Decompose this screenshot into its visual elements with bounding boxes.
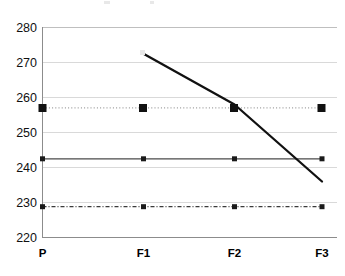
gridlines <box>43 63 338 203</box>
y-tick-label: 260 <box>16 91 37 105</box>
y-tick-label: 280 <box>16 21 37 35</box>
x-tick-label: F2 <box>228 247 241 259</box>
x-tick-label: P <box>39 247 47 259</box>
series-middle-constant <box>40 156 325 161</box>
x-axis-labels: P F1 F2 F3 <box>39 247 329 259</box>
chart-canvas: 280 270 260 250 240 230 220 <box>0 0 345 276</box>
cropped-title-artifact <box>104 1 154 4</box>
series-lower-constant <box>40 204 325 209</box>
series-upper-constant <box>39 104 326 112</box>
y-tick-label: 230 <box>16 196 37 210</box>
y-tick-label: 250 <box>16 126 37 140</box>
x-tick-label: F3 <box>315 247 328 259</box>
line-chart: 280 270 260 250 240 230 220 <box>0 0 345 276</box>
y-axis-labels: 280 270 260 250 240 230 220 <box>16 21 37 245</box>
x-tick-label: F1 <box>137 247 151 259</box>
y-tick-label: 240 <box>16 161 37 175</box>
y-tick-label: 270 <box>16 56 37 70</box>
y-tick-label: 220 <box>16 231 37 245</box>
series-declining <box>140 50 322 182</box>
